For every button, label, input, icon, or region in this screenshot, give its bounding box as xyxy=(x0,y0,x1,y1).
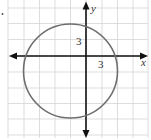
y-tick-label: 3 xyxy=(76,35,82,47)
x-tick-label: 3 xyxy=(98,58,104,70)
bullet-marker xyxy=(2,13,4,15)
y-axis-up-arrow-icon xyxy=(83,2,90,10)
y-axis-label: y xyxy=(90,2,96,14)
coordinate-graph: y x 3 3 xyxy=(0,0,151,140)
x-axis-left-arrow-icon xyxy=(9,53,17,60)
y-axis-down-arrow-icon xyxy=(83,130,90,138)
x-axis-label: x xyxy=(140,56,146,68)
y-axis xyxy=(83,2,90,139)
x-axis xyxy=(9,53,148,60)
